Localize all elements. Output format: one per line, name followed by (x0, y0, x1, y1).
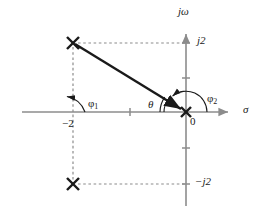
angle-phi-1-arc (67, 97, 85, 113)
diagram-canvas (0, 0, 266, 222)
tick-label-minus-2: −2 (62, 118, 74, 129)
angle-phi-2-subscript: 2 (213, 97, 217, 106)
angle-phi-1-label: φ1 (88, 98, 98, 111)
angle-phi-1-subscript: 1 (94, 102, 98, 111)
origin-label: 0 (190, 116, 196, 127)
pole-lower-left (67, 178, 79, 190)
tick-label-j2: j2 (197, 35, 206, 46)
angle-theta-label: θ (148, 99, 153, 110)
pole-markers (67, 37, 191, 190)
real-axis-label: σ (243, 104, 248, 115)
construction-guides (73, 43, 185, 184)
axis-ticks (130, 43, 190, 184)
imaginary-axis-label: jω (178, 6, 189, 17)
angle-phi-2-label: φ2 (207, 93, 217, 106)
spane-diagram: jω σ 0 j2 −j2 −2 θ φ1 φ2 (0, 0, 266, 222)
tick-label-minus-j2: −j2 (195, 176, 211, 187)
